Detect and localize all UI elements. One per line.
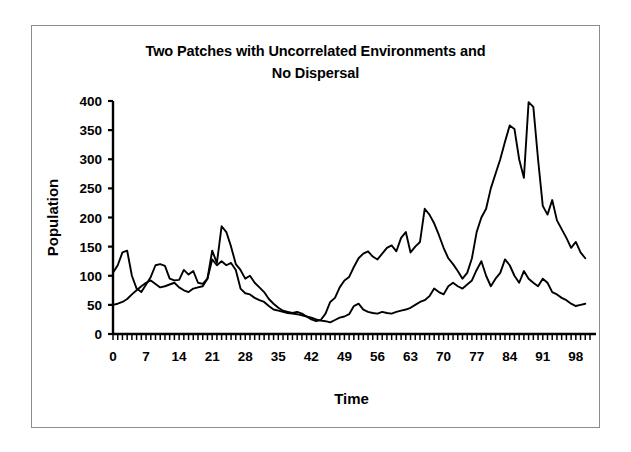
x-tick-label: 77 xyxy=(469,349,484,364)
x-tick-label: 21 xyxy=(205,349,221,364)
y-tick-label: 100 xyxy=(79,269,102,284)
x-tick-label: 98 xyxy=(568,349,584,364)
x-tick-label: 7 xyxy=(142,349,150,364)
x-tick-label: 0 xyxy=(109,349,117,364)
y-tick-label: 300 xyxy=(79,152,102,167)
y-tick-label: 0 xyxy=(94,327,102,342)
y-tick-label: 200 xyxy=(79,211,102,226)
x-tick-label: 35 xyxy=(271,349,287,364)
series-line-patch-2 xyxy=(113,259,585,322)
y-axis-title: Population xyxy=(44,179,61,257)
x-tick-label: 42 xyxy=(304,349,319,364)
x-axis-tick-labels: 0714212835424956637077849198 xyxy=(109,349,584,364)
x-tick-label: 84 xyxy=(502,349,518,364)
y-tick-label: 50 xyxy=(87,298,102,313)
x-axis-title: Time xyxy=(334,390,369,407)
y-tick-label: 400 xyxy=(79,94,102,109)
y-axis-tick-labels: 050100150200250300350400 xyxy=(79,94,102,342)
x-tick-label: 63 xyxy=(403,349,419,364)
series-line-patch-1 xyxy=(113,102,585,321)
x-tick-label: 28 xyxy=(238,349,254,364)
x-tick-label: 70 xyxy=(436,349,451,364)
x-tick-label: 91 xyxy=(535,349,551,364)
x-tick-label: 49 xyxy=(337,349,352,364)
y-tick-label: 250 xyxy=(79,181,102,196)
chart-plot-area: 050100150200250300350400 071421283542495… xyxy=(32,26,601,429)
y-tick-label: 350 xyxy=(79,123,102,138)
chart-figure: Two Patches with Uncorrelated Environmen… xyxy=(31,25,600,428)
x-tick-label: 14 xyxy=(172,349,188,364)
x-tick-label: 56 xyxy=(370,349,386,364)
y-tick-label: 150 xyxy=(79,240,102,255)
